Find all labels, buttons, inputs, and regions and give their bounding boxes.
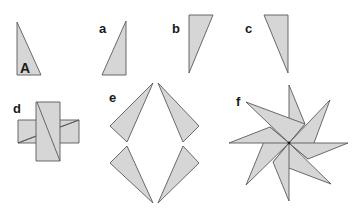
star-center-point (288, 142, 291, 145)
label-A: A (20, 60, 30, 76)
triangle-e-top-right (158, 83, 199, 142)
triangle-b (189, 15, 213, 73)
label-d: d (13, 101, 21, 116)
label-b: b (172, 21, 180, 36)
pinwheel-star (229, 85, 348, 201)
triangle-e-top-left (110, 83, 153, 142)
triangle-e-bottom-left (110, 146, 153, 203)
panel-f: f (229, 85, 348, 201)
panel-e: e (109, 83, 199, 203)
label-f: f (236, 94, 241, 109)
triangle-c (264, 15, 288, 73)
label-e: e (109, 90, 116, 105)
panel-a: a (99, 21, 126, 75)
panel-b: b (172, 15, 213, 73)
triangle-e-bottom-right (158, 146, 199, 203)
label-a: a (99, 21, 107, 36)
label-c: c (245, 21, 252, 36)
triangle-transformation-diagram: A a b c d e f (0, 0, 360, 213)
panel-d: d (13, 101, 79, 161)
panel-A: A (17, 22, 41, 76)
panel-c: c (245, 15, 288, 73)
